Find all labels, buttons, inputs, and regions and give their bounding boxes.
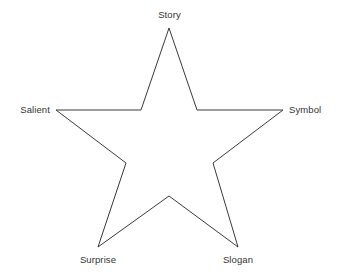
star-diagram: Story Symbol Slogan Surprise Salient — [0, 0, 339, 278]
star-shape-canvas — [0, 0, 339, 278]
star-point-label-symbol: Symbol — [289, 104, 321, 116]
star-point-label-story: Story — [0, 9, 339, 21]
star-point-label-slogan: Slogan — [188, 254, 288, 266]
star-outline-shape — [56, 28, 283, 247]
star-point-label-surprise: Surprise — [42, 254, 154, 266]
star-point-label-salient: Salient — [0, 104, 50, 116]
